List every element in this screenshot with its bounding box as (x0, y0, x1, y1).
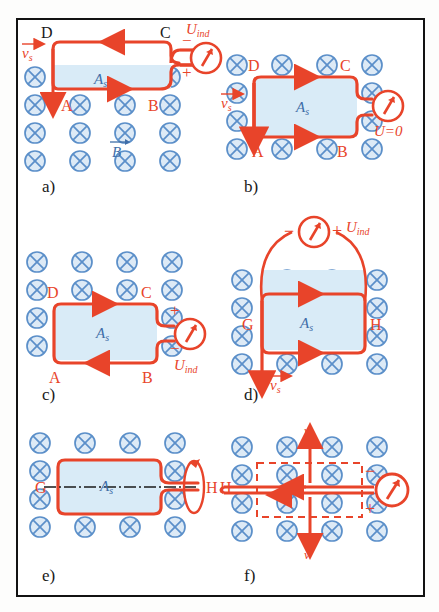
velocity-label-a: vs (22, 45, 33, 63)
corner-label-c-A: A (49, 369, 61, 386)
corner-label-c-B: B (142, 369, 153, 386)
meter-label-d: Uind (346, 219, 371, 237)
panel-caption-e: e) (42, 566, 55, 585)
velocity-label-f-top: v (304, 423, 310, 438)
terminal-a-plus: + (182, 63, 192, 82)
area-fill-a (53, 65, 171, 89)
panel-a: D C A B As − + Uind vs B a) (20, 22, 220, 197)
meter-f (376, 474, 408, 506)
corner-label-d-G: G (242, 316, 254, 333)
corner-label-c-C: C (141, 284, 152, 301)
area-fill-d (262, 270, 365, 350)
panel-d: − + Uind G H As vs d) (224, 218, 424, 403)
corner-label-b-D: D (248, 57, 260, 74)
terminal-f-minus: − (365, 461, 375, 481)
meter-b (373, 91, 403, 121)
rotation-arrow-e (184, 459, 204, 513)
panel-f: H v v − + f) (224, 425, 424, 590)
meter-label-a: Uind (186, 21, 211, 39)
corner-label-b-C: C (340, 57, 351, 74)
meter-label-c: Uind (174, 357, 199, 375)
meter-label-b: U=0 (374, 123, 403, 139)
velocity-label-f-bottom: v (304, 547, 310, 562)
terminal-d-minus: − (284, 221, 294, 241)
corner-label-d-H: H (370, 316, 382, 333)
field-label-a: B (112, 144, 121, 160)
corner-label-b-B: B (337, 143, 348, 160)
physics-figure: D C A B As − + Uind vs B a) (0, 0, 439, 612)
terminal-f-plus: + (365, 499, 375, 519)
panel-caption-c: c) (42, 385, 55, 404)
panel-caption-f: f) (244, 566, 255, 585)
terminal-c-minus: − (170, 339, 180, 358)
corner-label-c-D: D (47, 284, 59, 301)
meter-a (191, 43, 221, 73)
panel-b: D C A B As U=0 vs b) (222, 40, 422, 200)
corner-label-a-B: B (148, 97, 159, 114)
terminal-c-plus: + (170, 301, 180, 320)
corner-label-a-A: A (61, 97, 73, 114)
corner-label-e-H: H (206, 479, 218, 496)
corner-label-b-A: A (252, 143, 264, 160)
panel-caption-b: b) (244, 177, 258, 196)
corner-label-a-C: C (160, 24, 171, 41)
corner-label-a-D: D (41, 24, 53, 41)
corner-label-f-H: H (220, 479, 232, 496)
panel-caption-a: a) (42, 177, 55, 196)
velocity-label-d: vs (270, 377, 281, 395)
panel-caption-d: d) (244, 385, 258, 404)
terminal-d-plus: + (332, 221, 342, 241)
meter-d (299, 217, 329, 247)
corner-label-e-G: G (35, 479, 47, 496)
panel-c: D C A B As + − Uind c) (22, 240, 222, 405)
panel-e: G H As e) (22, 425, 222, 590)
